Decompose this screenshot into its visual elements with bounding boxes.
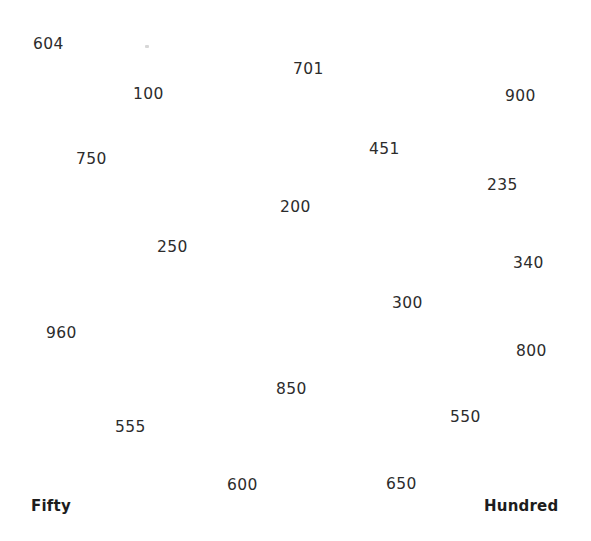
scatter-number: 451 [369, 142, 400, 158]
scatter-number: 800 [516, 344, 547, 360]
scatter-number: 701 [293, 62, 324, 78]
scatter-number: 555 [115, 420, 146, 436]
scatter-number: 200 [280, 200, 311, 216]
scatter-number: 300 [392, 296, 423, 312]
scatter-number: 600 [227, 478, 258, 494]
scatter-number: 650 [386, 477, 417, 493]
anchor-label-hundred: Hundred [484, 499, 558, 514]
scatter-number: 340 [513, 256, 544, 272]
anchor-label-fifty: Fifty [31, 499, 71, 514]
scatter-number: 604 [33, 37, 64, 53]
scatter-number: 250 [157, 240, 188, 256]
scatter-number: 750 [76, 152, 107, 168]
scatter-number: 960 [46, 326, 77, 342]
number-scatter-sheet: 6047011009004517502352002503403009608008… [0, 0, 591, 541]
scatter-number: 550 [450, 410, 481, 426]
scatter-number: 235 [487, 178, 518, 194]
scatter-number: 900 [505, 89, 536, 105]
scan-speck-artifact [145, 45, 149, 48]
scatter-number: 100 [133, 87, 164, 103]
scatter-number: 850 [276, 382, 307, 398]
